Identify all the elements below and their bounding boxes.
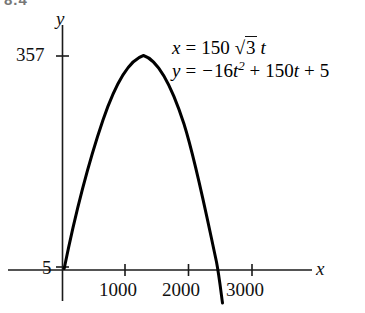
equation-y-term1-coefficient: 16: [214, 60, 233, 81]
equation-x-lhs: x: [172, 37, 180, 58]
equation-y-constant: 5: [320, 60, 330, 81]
equation-x-coefficient: 150: [201, 37, 230, 58]
x-tick-label-1000: 1000: [99, 279, 137, 301]
equation-y-term2-coefficient: 150: [265, 60, 294, 81]
equation-x-variable: t: [261, 37, 266, 58]
x-tick-label-3000: 3000: [226, 279, 264, 301]
x-tick-label-2000: 2000: [162, 279, 200, 301]
equation-x-relation: =: [184, 37, 197, 58]
equation-x: x=150√3t: [172, 36, 329, 59]
square-root-group: √3: [234, 36, 257, 59]
equation-y-term1-sign: −: [201, 60, 214, 81]
equation-x-radicand: 3: [245, 36, 257, 58]
equation-y: y=−16t2+150t+5: [172, 59, 329, 82]
equation-y-relation: =: [184, 60, 197, 81]
equation-y-op1: +: [249, 60, 262, 81]
y-tick-label-5: 5: [42, 257, 52, 279]
equation-y-lhs: y: [172, 60, 180, 81]
trajectory-curve: [64, 56, 222, 304]
y-tick-label-357: 357: [16, 44, 45, 66]
radical-icon: √: [235, 37, 245, 58]
equation-y-op2: +: [303, 60, 316, 81]
equation-y-term2-variable: t: [294, 60, 299, 81]
y-axis-label: y: [56, 8, 64, 30]
x-axis-label: x: [316, 258, 324, 280]
equation-y-term1-exponent: 2: [238, 58, 244, 73]
equation-annotations: x=150√3t y=−16t2+150t+5: [172, 36, 329, 82]
projectile-parametric-figure: 8.4 357 5 1000 2000 3000 y x x=150√3t y=…: [0, 0, 365, 313]
